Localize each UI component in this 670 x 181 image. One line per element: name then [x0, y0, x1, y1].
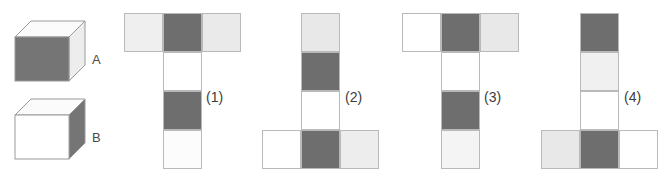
net-2-cell-r0c1 — [301, 13, 340, 52]
net-2-cell-r3c0 — [262, 130, 301, 169]
net-4-cell-r1c1 — [580, 52, 619, 91]
net-1-label: (1) — [206, 90, 223, 104]
net-1-cell-r3c1 — [163, 130, 202, 169]
net-4-cell-r3c1 — [580, 130, 619, 169]
net-3-cell-r2c1 — [441, 91, 480, 130]
net-3 — [402, 13, 519, 170]
cube-b-drawing — [14, 98, 86, 160]
net-3-cell-r0c0 — [402, 13, 441, 52]
net-4-cell-r3c2 — [619, 130, 658, 169]
net-2-cell-r3c2 — [340, 130, 379, 169]
net-4-cell-r3c0 — [541, 130, 580, 169]
cube-b-figure — [14, 98, 86, 160]
net-4-label: (4) — [624, 90, 641, 104]
net-2-cell-r1c1 — [301, 52, 340, 91]
net-1-cell-r0c2 — [202, 13, 241, 52]
net-2-cell-r3c1 — [301, 130, 340, 169]
cube-a-figure — [14, 20, 86, 82]
net-3-cell-r3c1 — [441, 130, 480, 169]
net-3-cell-r0c1 — [441, 13, 480, 52]
net-1-cell-r1c1 — [163, 52, 202, 91]
net-3-label: (3) — [484, 90, 501, 104]
net-4-cell-r2c1 — [580, 91, 619, 130]
net-2-label: (2) — [345, 90, 362, 104]
net-3-cell-r0c2 — [480, 13, 519, 52]
net-2-cell-r2c1 — [301, 91, 340, 130]
cube-b-label: B — [92, 131, 101, 144]
cube-a-label: A — [92, 53, 101, 66]
net-3-cell-r1c1 — [441, 52, 480, 91]
net-1-cell-r0c1 — [163, 13, 202, 52]
cube-a-drawing — [14, 20, 86, 82]
net-1 — [124, 13, 241, 170]
net-1-cell-r2c1 — [163, 91, 202, 130]
net-4-cell-r0c1 — [580, 13, 619, 52]
net-1-cell-r0c0 — [124, 13, 163, 52]
